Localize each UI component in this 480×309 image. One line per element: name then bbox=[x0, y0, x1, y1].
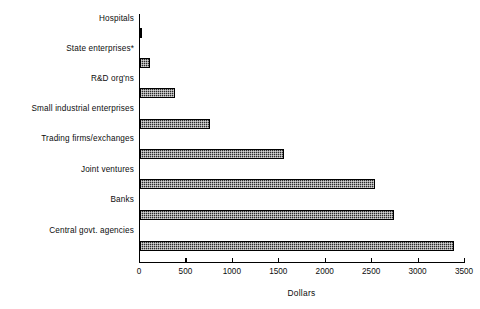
x-tick-label-500: 500 bbox=[179, 267, 193, 277]
category-label-trading-firms-exchanges: Trading firms/exchanges bbox=[0, 134, 134, 143]
bar-small-industrial-enterprises bbox=[140, 119, 210, 129]
bar-central-govt-agencies bbox=[140, 241, 454, 251]
x-axis-title: Dollars bbox=[139, 288, 464, 298]
category-label-rd-orgns: R&D org'ns bbox=[0, 74, 134, 83]
category-axis-labels: Hospitals State enterprises* R&D org'ns … bbox=[0, 14, 134, 262]
x-tick-2000 bbox=[325, 258, 326, 263]
x-tick-label-0: 0 bbox=[137, 267, 142, 277]
x-tick-3500 bbox=[464, 258, 465, 263]
x-tick-1500 bbox=[278, 258, 279, 263]
category-label-state-enterprises: State enterprises* bbox=[0, 44, 134, 53]
x-tick-label-3500: 3500 bbox=[455, 267, 473, 277]
bar-hospitals bbox=[140, 28, 142, 38]
x-tick-label-1500: 1500 bbox=[269, 267, 287, 277]
x-axis-line bbox=[139, 262, 464, 263]
category-label-banks: Banks bbox=[0, 195, 134, 204]
bar-banks bbox=[140, 210, 394, 220]
category-label-small-industrial-enterprises: Small industrial enterprises bbox=[0, 104, 134, 113]
x-tick-0 bbox=[139, 258, 140, 263]
x-tick-1000 bbox=[232, 258, 233, 263]
bar-joint-ventures bbox=[140, 179, 375, 189]
bar-state-enterprises bbox=[140, 58, 150, 68]
x-tick-label-2500: 2500 bbox=[362, 267, 380, 277]
x-tick-3000 bbox=[418, 258, 419, 263]
plot-area bbox=[139, 14, 464, 262]
category-label-joint-ventures: Joint ventures bbox=[0, 165, 134, 174]
x-tick-label-2000: 2000 bbox=[316, 267, 334, 277]
x-axis: 0500100015002000250030003500 bbox=[139, 262, 464, 264]
bar-trading-firms-exchanges bbox=[140, 149, 284, 159]
x-tick-2500 bbox=[371, 258, 372, 263]
y-axis-line bbox=[139, 14, 140, 262]
x-tick-label-3000: 3000 bbox=[408, 267, 426, 277]
x-tick-label-1000: 1000 bbox=[223, 267, 241, 277]
bar-rd-orgns bbox=[140, 88, 175, 98]
bar-chart: Hospitals State enterprises* R&D org'ns … bbox=[0, 0, 480, 309]
category-label-hospitals: Hospitals bbox=[0, 14, 134, 23]
category-label-central-govt-agencies: Central govt. agencies bbox=[0, 226, 134, 235]
x-tick-500 bbox=[185, 258, 186, 263]
